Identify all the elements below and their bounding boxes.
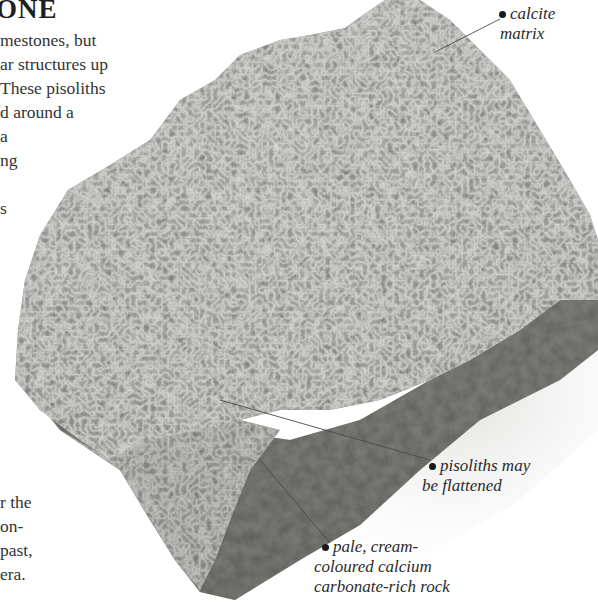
outro-line: past, (0, 538, 33, 562)
annotation-calcite-matrix: calcite matrix (499, 4, 555, 44)
intro-line: These pisoliths (0, 76, 108, 100)
intro-line: ar structures up (0, 52, 108, 76)
page-title: ONE (0, 0, 58, 26)
annotation-text: matrix (499, 24, 555, 44)
annotation-text: coloured calcium (314, 557, 450, 577)
annotation-pale-rock: pale, cream- coloured calcium carbonate-… (322, 537, 450, 597)
intro-line: a (0, 124, 108, 148)
annotation-text: pale, cream- (333, 537, 418, 556)
annotation-text: carbonate-rich rock (314, 577, 450, 597)
bullet-dot-icon (429, 463, 436, 470)
annotation-pisoliths-flattened: pisoliths may be flattened (429, 456, 530, 496)
bullet-dot-icon (499, 11, 506, 18)
outro-paragraph: r the on- past, era. (0, 490, 33, 586)
intro-line: d around a (0, 100, 108, 124)
outro-line: on- (0, 514, 33, 538)
outro-line: r the (0, 490, 33, 514)
intro-line: s (0, 196, 108, 220)
annotation-text: calcite (510, 4, 555, 23)
intro-line: mestones, but (0, 28, 108, 52)
annotation-text: pisoliths may (440, 456, 530, 475)
outro-line: era. (0, 562, 33, 586)
book-page: ONE mestones, but ar structures up These… (0, 0, 598, 609)
intro-line (0, 172, 108, 196)
bullet-dot-icon (322, 544, 329, 551)
intro-line: ng (0, 148, 108, 172)
annotation-text: be flattened (422, 476, 530, 496)
intro-paragraph: mestones, but ar structures up These pis… (0, 28, 108, 220)
